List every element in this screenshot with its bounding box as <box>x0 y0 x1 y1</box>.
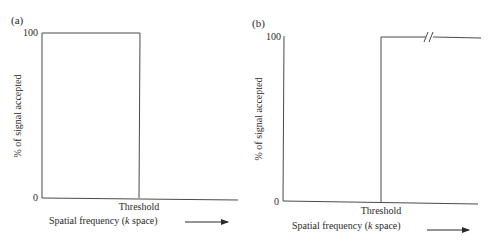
figure: (a) 100 0 % of signal accepted Threshold… <box>0 0 490 249</box>
panel-b-y-tick-0: 0 <box>274 196 279 207</box>
panel-b-threshold-label: Threshold <box>361 205 402 216</box>
panel-a-filter-curve <box>42 33 140 198</box>
panel-b-filter-curve-continued <box>433 37 481 38</box>
panel-b-filter-curve <box>381 37 426 202</box>
panel-b-label: (b) <box>252 17 265 30</box>
panel-b-x-axis-label: Spatial frequency (k space) <box>292 220 401 232</box>
panel-a: (a) 100 0 % of signal accepted Threshold… <box>11 14 238 227</box>
panel-a-x-axis <box>42 198 238 200</box>
panel-a-threshold-label: Threshold <box>119 201 160 212</box>
panel-b-y-axis <box>283 36 284 201</box>
panel-b: (b) 100 0 % of signal accepted Threshold… <box>252 17 481 232</box>
panel-a-y-tick-100: 100 <box>23 27 38 38</box>
panel-a-y-tick-0: 0 <box>33 192 38 203</box>
panel-a-x-axis-label: Spatial frequency (k space) <box>49 215 158 227</box>
panel-b-y-tick-100: 100 <box>266 31 281 42</box>
panel-a-y-axis-label: % of signal accepted <box>12 74 23 157</box>
panel-b-y-axis-label: % of signal accepted <box>253 77 264 160</box>
panel-a-label: (a) <box>11 14 24 27</box>
